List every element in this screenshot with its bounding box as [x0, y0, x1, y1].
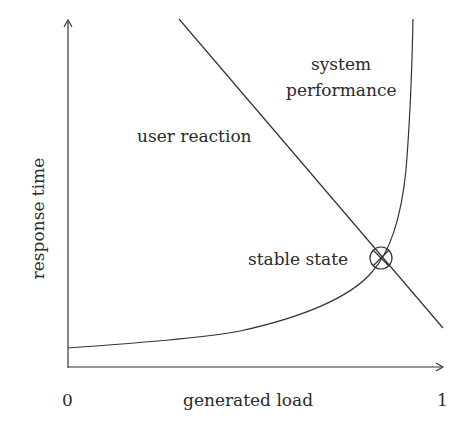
x-tick-1: 1 — [437, 392, 448, 409]
stable-state-marker-icon — [370, 247, 392, 269]
label-user-reaction: user reaction — [137, 128, 252, 145]
x-axis-label: generated load — [183, 392, 313, 409]
label-performance: performance — [286, 82, 397, 99]
diagram-canvas — [0, 0, 469, 433]
label-stable-state: stable state — [248, 251, 348, 268]
y-axis-label: response time — [30, 144, 47, 294]
label-system: system — [311, 56, 371, 73]
x-tick-0: 0 — [62, 392, 73, 409]
